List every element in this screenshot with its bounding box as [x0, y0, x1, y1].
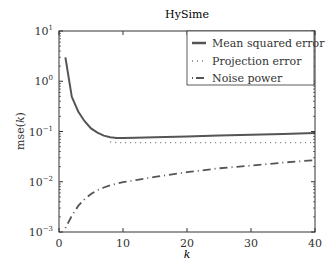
y-axis-label: mse(k): [14, 112, 27, 150]
x-tick-label: 30: [244, 237, 258, 250]
y-tick-label: 10−3: [29, 225, 53, 239]
legend-label-projection: Projection error: [212, 55, 302, 68]
series-projection-error: [110, 142, 315, 143]
legend: Mean squared error Projection error Nois…: [187, 31, 325, 85]
x-axis-label: k: [184, 248, 191, 261]
x-tick-label: 10: [116, 237, 130, 250]
y-tick-label: 100: [35, 74, 53, 88]
y-tick-label: 10−1: [29, 125, 53, 139]
x-tick-label: 40: [308, 237, 322, 250]
series-noise-power: [65, 160, 315, 228]
legend-label-noise: Noise power: [212, 72, 283, 85]
y-tick-label: 101: [35, 24, 53, 38]
chart-title: HySime: [165, 8, 209, 21]
x-tick-label: 0: [56, 237, 63, 250]
legend-label-mse: Mean squared error: [212, 37, 325, 50]
hysime-chart: HySime 01020304010−310−210−1100101 k mse…: [0, 0, 334, 273]
y-tick-label: 10−2: [29, 175, 53, 189]
